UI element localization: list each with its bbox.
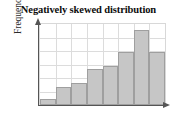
bar xyxy=(71,83,87,105)
y-axis-arrow-icon xyxy=(35,18,41,25)
bar xyxy=(149,52,165,105)
x-axis-line xyxy=(38,105,164,106)
plot-area xyxy=(39,23,166,106)
bar xyxy=(56,87,72,105)
bar xyxy=(87,69,103,105)
bar xyxy=(134,30,150,105)
chart-title: Negatively skewed distribution xyxy=(0,4,177,15)
bar-series xyxy=(40,24,165,105)
bar xyxy=(118,52,134,105)
y-axis-line xyxy=(38,24,39,106)
bar xyxy=(103,66,119,105)
chart-screenshot: Negatively skewed distribution Frequency xyxy=(0,0,177,118)
y-axis-label: Frequency xyxy=(13,0,25,44)
x-axis-arrow-icon xyxy=(163,102,170,108)
